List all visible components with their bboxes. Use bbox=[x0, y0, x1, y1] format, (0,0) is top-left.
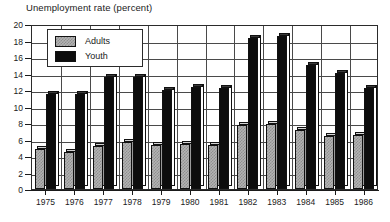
bar-side bbox=[258, 35, 261, 186]
x-axis-tick bbox=[45, 191, 46, 195]
bar-side bbox=[345, 70, 348, 186]
bar-youth-1982 bbox=[248, 38, 258, 189]
bar-face bbox=[277, 36, 287, 189]
chart-title: Unemployment rate (percent) bbox=[26, 2, 152, 13]
bar-adults-1978 bbox=[122, 142, 132, 189]
adults-swatch-icon bbox=[55, 36, 76, 47]
legend-label-youth: Youth bbox=[85, 52, 108, 61]
bar-youth-1977 bbox=[104, 77, 114, 189]
bar-top bbox=[308, 62, 318, 65]
bar-youth-1980 bbox=[191, 87, 201, 189]
y-axis-tick-label: 0 bbox=[3, 186, 23, 195]
bar-face bbox=[162, 90, 172, 189]
bar-youth-1985 bbox=[335, 73, 345, 189]
x-axis-tick bbox=[190, 191, 191, 195]
gridline-vertical bbox=[234, 26, 235, 189]
x-axis-tick bbox=[364, 191, 365, 195]
bar-side bbox=[172, 87, 175, 186]
bar-adults-1984 bbox=[295, 130, 305, 189]
y-axis-tick bbox=[25, 157, 31, 158]
x-axis-tick bbox=[103, 191, 104, 195]
bar-face bbox=[122, 142, 132, 189]
y-axis-tick-label: 8 bbox=[3, 120, 23, 129]
bar-face bbox=[151, 145, 161, 189]
x-axis-tick bbox=[161, 191, 162, 195]
bar-youth-1976 bbox=[75, 94, 85, 189]
bar-face bbox=[266, 124, 276, 189]
x-axis-tick bbox=[219, 191, 220, 195]
y-axis-tick bbox=[25, 174, 31, 175]
bar-face bbox=[191, 87, 201, 189]
y-axis-tick bbox=[25, 124, 31, 125]
bar-face bbox=[35, 149, 45, 189]
bar-adults-1979 bbox=[151, 145, 161, 189]
bar-face bbox=[104, 77, 114, 189]
x-axis-tick bbox=[306, 191, 307, 195]
gridline-vertical bbox=[148, 26, 149, 189]
bar-face bbox=[75, 94, 85, 189]
x-axis-tick-label: 1986 bbox=[347, 198, 381, 207]
bar-face bbox=[306, 65, 316, 189]
bar-adults-1982 bbox=[237, 125, 247, 189]
x-axis-tick bbox=[132, 191, 133, 195]
bar-top bbox=[279, 33, 289, 36]
bar-top bbox=[164, 87, 174, 90]
bar-adults-1977 bbox=[93, 146, 103, 189]
y-axis-tick-label: 20 bbox=[3, 21, 23, 30]
bar-adults-1975 bbox=[35, 149, 45, 189]
bar-face bbox=[364, 88, 374, 189]
chart-legend: Adults Youth bbox=[47, 29, 143, 67]
bar-face bbox=[208, 145, 218, 189]
x-axis-tick bbox=[335, 191, 336, 195]
y-axis-tick-label: 16 bbox=[3, 54, 23, 63]
bar-face bbox=[237, 125, 247, 189]
y-axis-tick-label: 18 bbox=[3, 38, 23, 47]
bar-face bbox=[64, 152, 74, 189]
gridline-vertical bbox=[206, 26, 207, 189]
bar-top bbox=[337, 70, 347, 73]
bar-youth-1975 bbox=[46, 94, 56, 189]
bar-face bbox=[353, 135, 363, 189]
y-axis-tick-label: 14 bbox=[3, 71, 23, 80]
gridline-vertical bbox=[263, 26, 264, 189]
y-axis-tick bbox=[25, 75, 31, 76]
bar-adults-1980 bbox=[180, 144, 190, 189]
bar-face bbox=[46, 94, 56, 189]
y-axis-tick bbox=[25, 42, 31, 43]
y-axis-tick-label: 4 bbox=[3, 153, 23, 162]
bar-face bbox=[93, 146, 103, 189]
bar-side bbox=[201, 84, 204, 186]
bar-face bbox=[335, 73, 345, 189]
bar-side bbox=[143, 74, 146, 186]
legend-item-adults: Adults bbox=[55, 34, 142, 49]
bar-top bbox=[135, 74, 145, 77]
bar-top bbox=[366, 85, 376, 88]
y-axis-tick bbox=[25, 190, 31, 191]
x-axis-tick bbox=[248, 191, 249, 195]
gridline-vertical bbox=[292, 26, 293, 189]
bar-face bbox=[180, 144, 190, 189]
bar-adults-1986 bbox=[353, 135, 363, 189]
bar-adults-1981 bbox=[208, 145, 218, 189]
x-axis-tick bbox=[74, 191, 75, 195]
bar-side bbox=[114, 74, 117, 186]
bar-youth-1984 bbox=[306, 65, 316, 189]
gridline-vertical bbox=[321, 26, 322, 189]
bar-adults-1976 bbox=[64, 152, 74, 189]
bar-adults-1985 bbox=[324, 136, 334, 189]
bar-face bbox=[219, 88, 229, 189]
bar-face bbox=[133, 77, 143, 189]
bar-face bbox=[295, 130, 305, 189]
bar-side bbox=[229, 85, 232, 186]
y-axis-tick bbox=[25, 25, 31, 26]
bar-top bbox=[250, 35, 260, 38]
y-axis-tick bbox=[25, 141, 31, 142]
x-axis-tick bbox=[277, 191, 278, 195]
bar-youth-1978 bbox=[133, 77, 143, 189]
bar-youth-1979 bbox=[162, 90, 172, 189]
bar-youth-1981 bbox=[219, 88, 229, 189]
bar-adults-1983 bbox=[266, 124, 276, 189]
gridline-vertical bbox=[350, 26, 351, 189]
y-axis-tick bbox=[25, 58, 31, 59]
y-axis-tick-label: 6 bbox=[3, 137, 23, 146]
